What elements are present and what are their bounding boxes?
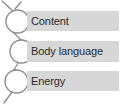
circle-node-3-icon <box>5 70 28 93</box>
bottom-tail-icon <box>4 92 12 103</box>
diagram-item-energy[interactable]: Energy <box>27 71 119 91</box>
diagram-item-label: Body language <box>31 46 103 57</box>
diagram-item-label: Content <box>31 16 69 27</box>
diagram-item-content[interactable]: Content <box>27 11 119 31</box>
diagram-item-label: Energy <box>31 76 65 87</box>
diagram-canvas: Content Body language Energy <box>0 0 125 105</box>
diagram-item-body-language[interactable]: Body language <box>27 41 119 62</box>
circle-node-1-icon <box>6 10 29 33</box>
top-stem-left-icon <box>2 1 13 11</box>
top-stem-right-icon <box>15 2 21 9</box>
